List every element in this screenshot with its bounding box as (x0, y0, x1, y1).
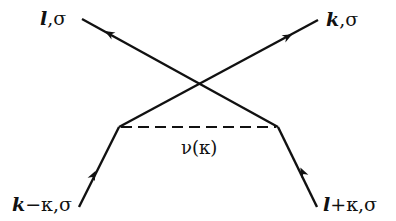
label-top-right: k,σ (326, 10, 358, 29)
line-outgoing-l (82, 19, 278, 127)
label-top-left: l,σ (40, 9, 66, 28)
line-incoming-l-plus-kappa (278, 127, 317, 207)
label-interaction: ν(κ) (181, 139, 217, 157)
label-bottom-right: l+κ,σ (323, 195, 377, 214)
label-suffix: ,σ (47, 7, 66, 29)
diagram-lines (0, 0, 396, 221)
momentum-k: k (12, 193, 25, 215)
line-incoming-k-minus-kappa (79, 127, 119, 207)
label-suffix: −κ,σ (25, 193, 72, 215)
feynman-diagram: l,σ k,σ k−κ,σ l+κ,σ ν(κ) (0, 0, 396, 221)
momentum-k: k (326, 8, 339, 30)
label-suffix: +κ,σ (330, 193, 377, 215)
label-suffix: ,σ (339, 8, 358, 30)
label-bottom-left: k−κ,σ (12, 195, 72, 214)
arrow-icon-outgoing-k (282, 31, 295, 43)
